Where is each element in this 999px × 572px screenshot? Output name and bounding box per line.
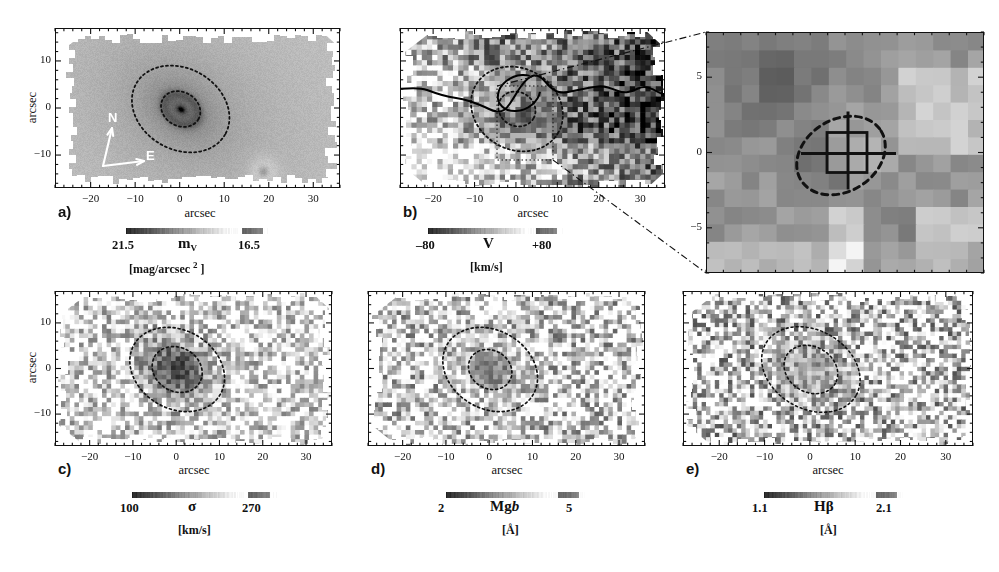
fr-e-xtick-label: −10: [745, 450, 785, 462]
colorbar-c-low: 100: [120, 501, 139, 516]
colorbar-e-quantity: Hβ: [814, 498, 834, 515]
fr-a-ytick-label: −10: [17, 147, 51, 159]
fr-e-xtick-label: −20: [699, 450, 739, 462]
fr-e-xtick-label: 20: [881, 450, 921, 462]
panel-e-map: [684, 292, 973, 446]
colorbar-a-quantity: mV: [178, 235, 197, 253]
colorbar-d-high: 5: [566, 501, 572, 516]
panel-d-image-frame: [368, 291, 645, 446]
fr-d-xtick-label: 20: [556, 450, 596, 462]
panel-a-map: [56, 29, 340, 188]
fr-a-xtick-label: −20: [71, 192, 111, 204]
fr-z-ytick-label: −5: [668, 220, 702, 232]
fr-e-xtick-label: 30: [926, 450, 966, 462]
fr-c-xtick-label: 10: [199, 450, 239, 462]
fr-d-xtick-label: 0: [469, 450, 509, 462]
fr-b-xtick-label: 0: [496, 192, 536, 204]
panel-c-map: [56, 292, 332, 446]
compass-north-label: N: [108, 110, 117, 125]
colorbar-a-high: 16.5: [238, 238, 260, 253]
colorbar-e-gradient: [764, 492, 904, 498]
colorbar-a-low: 21.5: [112, 238, 134, 253]
panel-d-xlabel: arcsec: [447, 463, 567, 478]
colorbar-b-low: –80: [416, 238, 435, 253]
fr-a-xtick-label: −10: [115, 192, 155, 204]
panel-b-label: b): [403, 203, 417, 220]
colorbar-d-unit: [Å]: [502, 523, 519, 538]
colorbar-e-low: 1.1: [752, 501, 768, 516]
fr-a-ytick-label: 10: [17, 53, 51, 65]
colorbar-d-quantity: Mgb: [490, 498, 519, 515]
panel-c-xlabel: arcsec: [134, 463, 254, 478]
fr-d-xtick-label: 30: [599, 450, 639, 462]
colorbar-b-unit: [km/s]: [470, 260, 503, 275]
inset-image-frame: [706, 32, 984, 273]
colorbar-a-unit: [mag/arcsec 2 ]: [129, 260, 205, 277]
colorbar-b-high: +80: [532, 238, 552, 253]
compass-east-label: E: [146, 148, 155, 163]
fr-c-ytick-label: −10: [17, 406, 51, 418]
fr-e-xtick-label: 0: [790, 450, 830, 462]
fr-a-xtick-label: 30: [293, 192, 333, 204]
colorbar-e-high: 2.1: [876, 501, 892, 516]
panel-c-label: c): [58, 460, 71, 477]
figure-root: arcsec arcsec a) NE arcsec b) arcsec arc…: [0, 0, 999, 572]
panel-d-map: [369, 292, 645, 446]
colorbar-e-unit: [Å]: [820, 523, 837, 538]
panel-e-image-frame: [683, 291, 973, 446]
fr-b-xtick-label: 30: [620, 192, 660, 204]
fr-b-xtick-label: 10: [537, 192, 577, 204]
fr-a-ytick-label: 0: [17, 100, 51, 112]
colorbar-b-quantity: V: [483, 235, 494, 252]
fr-b-xtick-label: 20: [579, 192, 619, 204]
fr-b-xtick-label: −10: [455, 192, 495, 204]
panel-b-image-frame: [400, 28, 665, 188]
panel-a-image-frame: [55, 28, 340, 188]
colorbar-d-low: 2: [438, 501, 444, 516]
panel-b-xlabel: arcsec: [473, 206, 593, 221]
fr-c-xtick-label: −10: [113, 450, 153, 462]
colorbar-c-gradient: [132, 492, 277, 498]
fr-a-xtick-label: 0: [160, 192, 200, 204]
fr-c-xtick-label: 20: [243, 450, 283, 462]
panel-a-xlabel: arcsec: [140, 206, 260, 221]
fr-b-xtick-label: −20: [413, 192, 453, 204]
colorbar-c-quantity: σ: [188, 498, 196, 515]
colorbar-b-gradient: [428, 228, 563, 234]
colorbar-a-gradient: [126, 228, 270, 234]
panel-c-image-frame: [55, 291, 332, 446]
fr-z-ytick-label: 0: [668, 145, 702, 157]
colorbar-d-quantity-base: Mg: [490, 498, 512, 514]
panel-a-label: a): [58, 203, 71, 220]
inset-map: [707, 33, 984, 273]
fr-c-ytick-label: 0: [17, 361, 51, 373]
fr-c-xtick-label: 0: [156, 450, 196, 462]
fr-d-xtick-label: 10: [512, 450, 552, 462]
panel-b-map: [401, 29, 665, 188]
fr-d-xtick-label: −20: [383, 450, 423, 462]
fr-e-xtick-label: 10: [835, 450, 875, 462]
colorbar-d-quantity-italic: b: [512, 498, 520, 514]
colorbar-a-quantity-sub: V: [191, 243, 198, 253]
fr-c-ytick-label: 10: [17, 315, 51, 327]
panel-e-xlabel: arcsec: [768, 463, 888, 478]
fr-c-xtick-label: 30: [286, 450, 326, 462]
panel-e-label: e): [686, 460, 699, 477]
colorbar-c-unit: [km/s]: [178, 523, 211, 538]
fr-c-xtick-label: −20: [70, 450, 110, 462]
colorbar-c-high: 270: [242, 501, 261, 516]
fr-a-xtick-label: 10: [204, 192, 244, 204]
fr-z-ytick-label: 5: [668, 69, 702, 81]
fr-d-xtick-label: −10: [426, 450, 466, 462]
panel-d-label: d): [371, 460, 385, 477]
colorbar-a-quantity-base: m: [178, 235, 191, 251]
fr-a-xtick-label: 20: [249, 192, 289, 204]
